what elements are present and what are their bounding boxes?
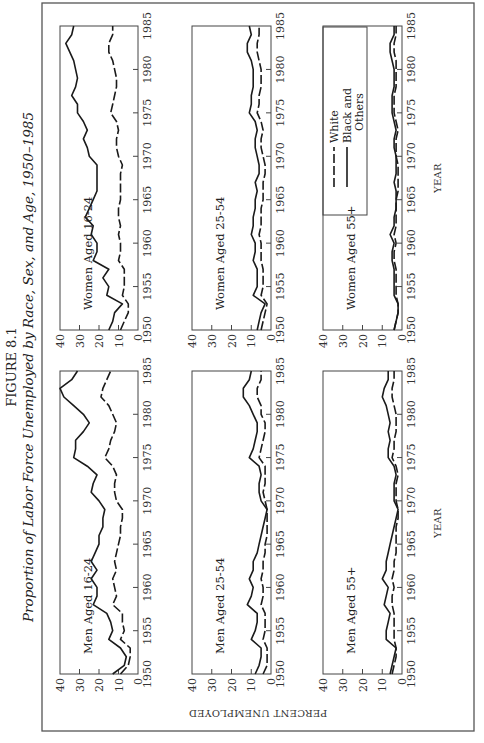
x-tick-label: 1950 — [405, 316, 418, 344]
x-tick-label: 1960 — [405, 573, 418, 601]
x-tick-label: 1960 — [141, 573, 154, 601]
y-tick-label: 20 — [357, 678, 370, 692]
plot-area — [60, 371, 138, 674]
y-tick-label: 30 — [337, 678, 350, 692]
x-tick-label: 1950 — [405, 660, 418, 688]
x-tick-label: 1965 — [141, 530, 154, 558]
x-tick-label: 1980 — [141, 400, 154, 428]
series-white — [257, 26, 267, 330]
series-white — [101, 371, 130, 674]
panel-title: Men Aged 55+ — [344, 567, 358, 654]
panel-women-aged-16-24: 0102030401950195519601965197019751980198… — [54, 12, 154, 348]
plot-area — [60, 26, 138, 330]
x-tick-label: 1975 — [274, 99, 287, 127]
x-tick-label: 1980 — [405, 55, 418, 83]
y-tick-label: 30 — [206, 334, 219, 348]
figure-title: Proportion of Labor Force Unemployed by … — [20, 112, 36, 623]
x-tick-label: 1980 — [274, 55, 287, 83]
x-tick-label: 1975 — [141, 99, 154, 127]
figure-svg: FIGURE 8.1 Proportion of Labor Force Une… — [0, 0, 484, 743]
panel-women-aged-25-54: 0102030401950195519601965197019751980198… — [186, 12, 287, 348]
figure-label: FIGURE 8.1 — [4, 327, 19, 407]
x-axis-title-women: YEAR — [432, 163, 443, 194]
x-tick-label: 1965 — [274, 530, 287, 558]
x-tick-label: 1975 — [405, 99, 418, 127]
x-tick-label: 1985 — [274, 12, 287, 40]
x-tick-label: 1970 — [274, 142, 287, 170]
x-tick-label: 1985 — [405, 357, 418, 385]
panel-title: Women Aged 16-24 — [81, 197, 95, 310]
series-white — [257, 371, 267, 674]
plot-area — [323, 371, 402, 674]
y-tick-label: 40 — [54, 334, 67, 348]
y-tick-label: 30 — [206, 678, 219, 692]
y-tick-label: 20 — [226, 334, 239, 348]
x-tick-label: 1985 — [141, 357, 154, 385]
panel-title: Women Aged 25-54 — [213, 197, 227, 310]
x-tick-label: 1970 — [405, 487, 418, 515]
x-tick-label: 1970 — [141, 142, 154, 170]
x-tick-label: 1980 — [141, 55, 154, 83]
panel-men-aged-55: 0102030401950195519601965197019751980198… — [317, 357, 418, 692]
panel-men-aged-16-24: 0102030401950195519601965197019751980198… — [54, 357, 154, 692]
series-black-and-others — [390, 26, 398, 330]
x-tick-label: 1955 — [405, 617, 418, 645]
x-tick-label: 1955 — [274, 273, 287, 301]
x-tick-label: 1975 — [405, 444, 418, 472]
legend-label-black-2: Others — [353, 93, 366, 131]
x-tick-label: 1960 — [274, 573, 287, 601]
plot-area — [192, 371, 271, 674]
y-tick-label: 40 — [186, 678, 199, 692]
x-tick-label: 1950 — [141, 660, 154, 688]
y-tick-label: 40 — [317, 334, 330, 348]
y-tick-label: 20 — [226, 678, 239, 692]
x-tick-label: 1960 — [274, 229, 287, 257]
x-tick-label: 1955 — [141, 617, 154, 645]
legend-label-white: White — [328, 110, 341, 143]
y-tick-label: 10 — [245, 678, 258, 692]
x-tick-label: 1985 — [141, 12, 154, 40]
rotated-figure: FIGURE 8.1 Proportion of Labor Force Une… — [0, 0, 484, 743]
x-tick-label: 1955 — [274, 617, 287, 645]
y-tick-label: 10 — [376, 678, 389, 692]
x-tick-label: 1980 — [405, 400, 418, 428]
series-black-and-others — [382, 371, 398, 674]
y-tick-label: 20 — [357, 334, 370, 348]
panel-men-aged-25-54: 0102030401950195519601965197019751980198… — [186, 357, 287, 692]
legend: White Black and Others — [323, 27, 367, 215]
x-tick-label: 1950 — [141, 316, 154, 344]
panel-title: Women Aged 55+ — [344, 206, 358, 311]
x-tick-label: 1985 — [405, 12, 418, 40]
y-axis-title: PERCENT UNEMPLOYED — [189, 708, 328, 719]
x-tick-label: 1955 — [141, 273, 154, 301]
y-tick-label: 10 — [376, 334, 389, 348]
y-tick-label: 30 — [74, 678, 87, 692]
y-tick-label: 10 — [113, 678, 126, 692]
x-tick-label: 1975 — [141, 444, 154, 472]
x-tick-label: 1955 — [405, 273, 418, 301]
x-tick-label: 1980 — [274, 400, 287, 428]
x-tick-label: 1965 — [274, 186, 287, 214]
x-tick-label: 1950 — [274, 316, 287, 344]
y-tick-label: 40 — [317, 678, 330, 692]
x-tick-label: 1950 — [274, 660, 287, 688]
y-tick-label: 40 — [186, 334, 199, 348]
x-tick-label: 1970 — [274, 487, 287, 515]
plot-area — [192, 26, 271, 330]
x-tick-label: 1960 — [405, 229, 418, 257]
y-tick-label: 40 — [54, 678, 67, 692]
x-tick-label: 1960 — [141, 229, 154, 257]
y-tick-label: 30 — [74, 334, 87, 348]
x-axis-title-men: YEAR — [432, 508, 443, 539]
y-tick-label: 10 — [245, 334, 258, 348]
x-tick-label: 1965 — [405, 186, 418, 214]
x-tick-label: 1970 — [141, 487, 154, 515]
x-tick-label: 1985 — [274, 357, 287, 385]
y-tick-label: 20 — [93, 678, 106, 692]
y-tick-label: 20 — [93, 334, 106, 348]
x-tick-label: 1975 — [274, 444, 287, 472]
x-tick-label: 1965 — [141, 186, 154, 214]
y-tick-label: 10 — [113, 334, 126, 348]
series-white — [109, 26, 129, 330]
panel-title: Men Aged 16-24 — [81, 558, 95, 654]
